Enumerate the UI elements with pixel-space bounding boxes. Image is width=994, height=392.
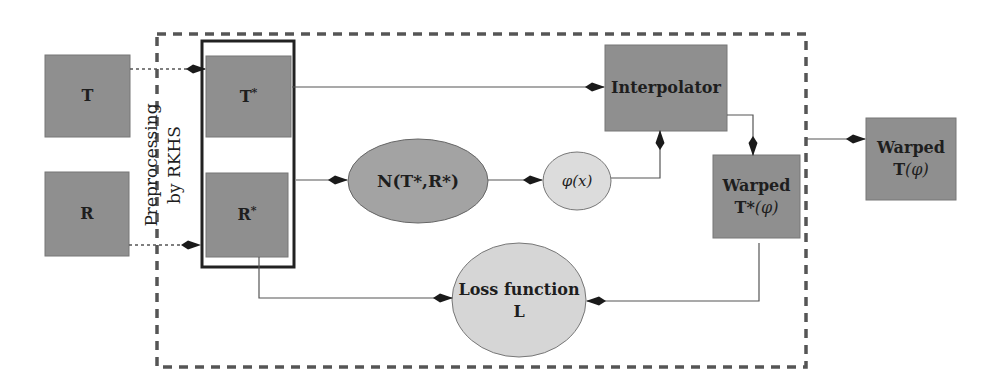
preprocessing-line2: by RKHS [163,90,186,240]
node-warped-t-label: Warped T(φ) [866,118,956,200]
warped-t-star-line1: Warped [723,175,791,197]
node-T-text: T [82,85,94,107]
node-T-star-label: T* [206,56,291,137]
node-warped-t-star-label: Warped T*(φ) [708,155,805,238]
node-R-star-text: R* [237,204,256,226]
warped-t-star-line2: T*(φ) [735,197,779,219]
preprocessing-line1: Preprocessing [140,90,163,240]
warped-t-line2: T(φ) [893,159,929,181]
warped-t-line1: Warped [877,137,945,159]
node-interpolator-label: Interpolator [600,45,732,131]
node-phi-text: φ(x) [562,171,593,191]
node-T-label: T [45,55,130,137]
loss-line2: L [513,301,524,323]
edge-phi-to-interpolator [611,131,660,178]
loss-line1: Loss function [458,279,579,301]
node-R-star-label: R* [206,173,288,257]
node-R-label: R [45,172,129,256]
node-phi-label: φ(x) [543,152,611,210]
preprocessing-label: Preprocessing by RKHS [140,90,190,240]
edge-R-star-to-loss [259,257,452,298]
node-network-label: N(T*,R*) [348,139,488,223]
node-network-text: N(T*,R*) [377,170,459,193]
edge-warped-t-star-to-loss [587,243,759,301]
node-R-text: R [80,203,93,225]
node-T-star-text: T* [240,86,258,108]
node-loss-label: Loss function L [448,266,590,336]
node-interpolator-text: Interpolator [611,77,721,99]
